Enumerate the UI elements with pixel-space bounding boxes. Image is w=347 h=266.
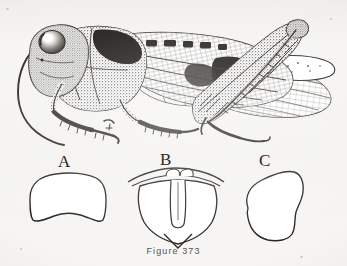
grasshopper-illustration [18,16,344,145]
plate-a-outline [30,173,106,221]
plate-b-outline [128,168,224,248]
plate-c-label: C [259,152,271,169]
plate-b-label: B [160,151,172,168]
plate-a-label: A [58,153,71,170]
plate-c-outline [247,171,303,240]
illustration-artwork [0,0,347,266]
figure-caption: Figure 373 [0,246,347,256]
figure-page: A B C Figure 373 [0,0,347,266]
